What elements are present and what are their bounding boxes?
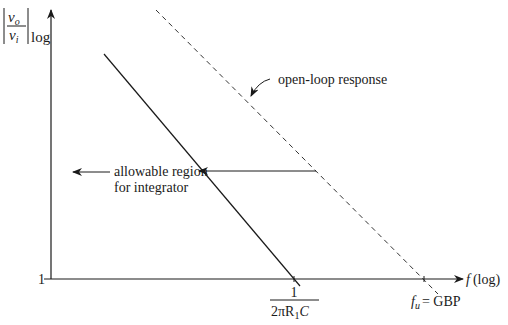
y-tick-label: 1 — [38, 272, 45, 287]
svg-text:log: log — [31, 29, 51, 45]
open-loop-response-line — [156, 10, 438, 294]
integrator-frequency-label: 1 2πR1C — [270, 285, 319, 321]
region-annotation-line1: allowable region — [114, 164, 208, 179]
bode-diagram: vo vi log 1 f(log) open-loop response al… — [0, 0, 508, 325]
svg-text:vo: vo — [8, 9, 20, 27]
unity-gain-frequency-label: fu= GBP — [411, 294, 461, 311]
open-loop-pointer-arrow — [251, 79, 270, 96]
svg-text:vi: vi — [9, 27, 19, 45]
y-axis-label: vo vi log — [4, 8, 51, 45]
open-loop-annotation: open-loop response — [278, 72, 387, 87]
svg-text:1: 1 — [291, 285, 298, 300]
region-annotation-line2: for integrator — [114, 180, 189, 195]
x-axis-label: f(log) — [466, 272, 500, 288]
svg-text:2πR1C: 2πR1C — [271, 304, 309, 321]
